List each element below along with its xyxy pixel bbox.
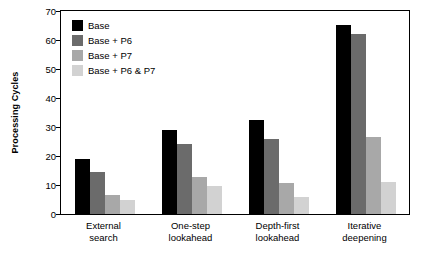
y-tick-label: 10 xyxy=(22,180,56,191)
legend-item: Base + P7 xyxy=(72,48,155,62)
bar xyxy=(162,130,177,214)
bar xyxy=(249,120,264,214)
bar xyxy=(351,34,366,214)
x-axis-group-label-line: Depth-first xyxy=(234,220,321,232)
bar xyxy=(366,137,381,214)
y-tick-label: 0 xyxy=(22,209,56,220)
legend-label: Base + P7 xyxy=(88,50,132,61)
bar xyxy=(177,144,192,214)
x-axis-group-label-line: Iterative xyxy=(321,220,408,232)
bar xyxy=(105,195,120,214)
legend: BaseBase + P6Base + P7Base + P6 & P7 xyxy=(72,18,155,78)
bar xyxy=(381,182,396,214)
y-tick-label: 70 xyxy=(22,6,56,17)
y-tick-label: 20 xyxy=(22,151,56,162)
legend-label: Base xyxy=(88,20,110,31)
legend-label: Base + P6 xyxy=(88,35,132,46)
bar xyxy=(120,200,135,214)
x-axis-group-label-line: search xyxy=(60,232,147,244)
x-axis-group-label: One-steplookahead xyxy=(147,220,234,244)
bar xyxy=(264,139,279,214)
y-axis-ticks: 010203040506070 xyxy=(20,10,56,215)
y-axis-label-container: Processing Cycles xyxy=(10,215,24,273)
bar xyxy=(279,183,294,214)
bar xyxy=(294,197,309,214)
x-axis-group-label: Depth-firstlookahead xyxy=(234,220,321,244)
y-tick-label: 40 xyxy=(22,93,56,104)
legend-swatch-icon xyxy=(72,50,83,61)
x-axis-group-label-line: lookahead xyxy=(234,232,321,244)
legend-label: Base + P6 & P7 xyxy=(88,65,155,76)
x-axis-group-label-line: One-step xyxy=(147,220,234,232)
x-axis-group-label-line: External xyxy=(60,220,147,232)
x-axis-group-label: Iterativedeepening xyxy=(321,220,408,244)
bar xyxy=(90,172,105,214)
legend-swatch-icon xyxy=(72,35,83,46)
legend-swatch-icon xyxy=(72,20,83,31)
legend-item: Base xyxy=(72,18,155,32)
y-tick-label: 30 xyxy=(22,122,56,133)
x-axis-group-label-line: lookahead xyxy=(147,232,234,244)
y-tick-label: 60 xyxy=(22,35,56,46)
bar xyxy=(207,186,222,214)
bar xyxy=(336,25,351,214)
legend-item: Base + P6 xyxy=(72,33,155,47)
legend-swatch-icon xyxy=(72,65,83,76)
x-axis-group-label-line: deepening xyxy=(321,232,408,244)
bar xyxy=(75,159,90,214)
bar-chart: Processing Cycles 010203040506070 BaseBa… xyxy=(0,0,426,273)
x-axis-group-label: Externalsearch xyxy=(60,220,147,244)
y-tick-label: 50 xyxy=(22,64,56,75)
bar xyxy=(192,177,207,214)
legend-item: Base + P6 & P7 xyxy=(72,63,155,77)
